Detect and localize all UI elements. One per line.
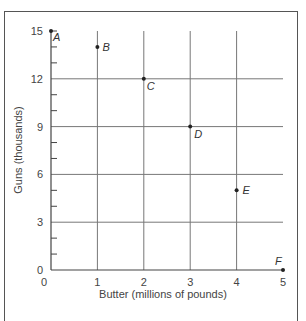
gridlines — [51, 31, 283, 270]
x-tick-label: 0 — [41, 276, 47, 288]
x-tick-label: 5 — [280, 276, 286, 288]
point-label-d: D — [194, 128, 202, 140]
y-axis-title: Guns (thousands) — [12, 106, 24, 193]
x-tick-label: 4 — [234, 276, 240, 288]
point-label-c: C — [147, 80, 155, 92]
data-point-b — [95, 45, 99, 49]
y-tick-label: 6 — [37, 168, 43, 180]
axes — [51, 30, 283, 270]
x-tick-label: 3 — [187, 276, 193, 288]
data-point-d — [188, 125, 192, 129]
y-tick-label: 3 — [37, 216, 43, 228]
y-tick-label: 15 — [31, 25, 43, 37]
data-point-c — [142, 77, 146, 81]
data-point-f — [281, 268, 285, 272]
point-label-b: B — [102, 41, 109, 53]
x-tick-label: 1 — [94, 276, 100, 288]
tick-labels: 03691215012345 — [31, 25, 286, 288]
x-tick-label: 2 — [141, 276, 147, 288]
y-tick-label: 9 — [37, 121, 43, 133]
data-point-e — [235, 188, 239, 192]
point-label-e: E — [243, 184, 251, 196]
point-label-a: A — [52, 31, 60, 43]
y-tick-label: 0 — [37, 264, 43, 276]
data-points: ABCDEF — [49, 29, 285, 272]
point-label-f: F — [275, 255, 283, 267]
x-axis-title: Butter (millions of pounds) — [99, 288, 227, 300]
y-tick-label: 12 — [31, 73, 43, 85]
